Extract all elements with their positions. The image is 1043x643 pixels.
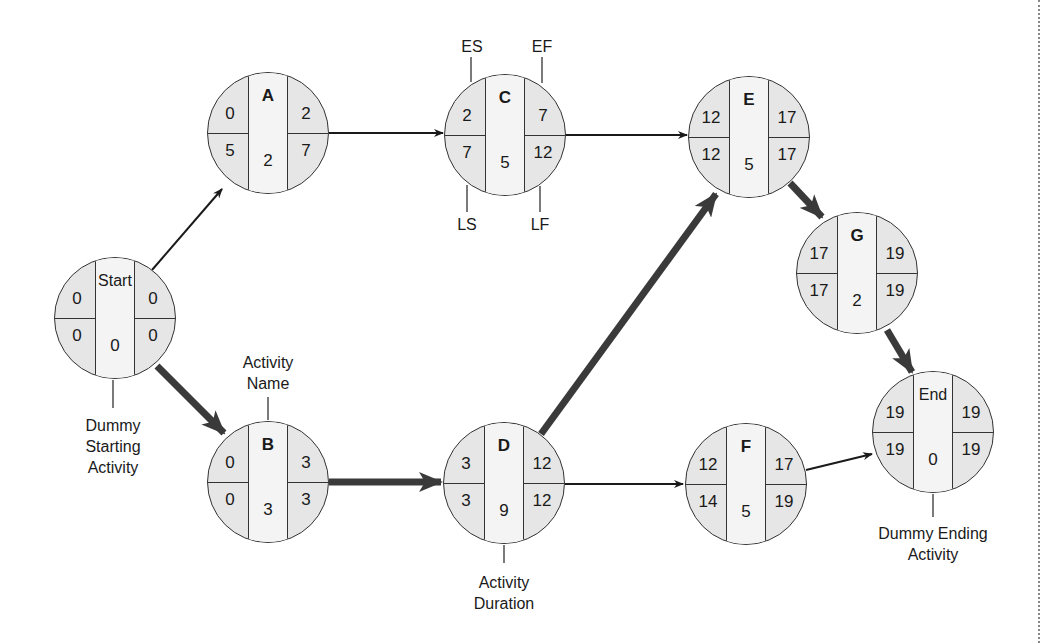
early-finish: 3 (286, 453, 326, 473)
early-start: 0 (57, 289, 97, 309)
arrow-e-to-g-critical (790, 183, 822, 217)
late-finish: 12 (522, 491, 562, 511)
late-finish: 19 (764, 492, 804, 512)
late-start: 7 (447, 143, 487, 163)
activity-duration-label: Activity Duration (454, 572, 554, 614)
right-divider (524, 135, 565, 136)
arrow-start-to-a (152, 189, 222, 270)
left-divider (444, 483, 485, 484)
activity-node-c: 27712C5 (444, 74, 566, 196)
activity-duration: 0 (95, 336, 135, 356)
late-finish: 7 (286, 141, 326, 161)
activity-name: G (837, 226, 877, 246)
right-divider (523, 483, 564, 484)
early-start: 0 (210, 453, 250, 473)
activity-duration: 3 (248, 500, 288, 520)
activity-name: E (729, 90, 769, 110)
late-finish: 12 (523, 143, 563, 163)
early-start: 12 (688, 455, 728, 475)
activity-duration: 0 (913, 450, 953, 470)
early-finish: 17 (764, 455, 804, 475)
activity-duration: 5 (485, 153, 525, 173)
activity-name: D (484, 436, 524, 456)
early-finish: 17 (767, 108, 807, 128)
activity-duration: 9 (484, 501, 524, 521)
left-divider (445, 135, 486, 136)
activity-node-d: 331212D9 (443, 422, 565, 544)
activity-name: A (248, 86, 288, 106)
early-finish: 19 (951, 403, 991, 423)
ef-label: EF (522, 36, 562, 57)
left-divider (797, 273, 838, 274)
left-divider (208, 133, 249, 134)
arrow-f-to-end (806, 454, 872, 470)
left-divider (208, 482, 249, 483)
activity-duration: 2 (248, 151, 288, 171)
early-start: 19 (875, 403, 915, 423)
arrow-g-to-end-critical (887, 330, 912, 372)
early-start: 0 (210, 104, 250, 124)
dummy-starting-activity-label: Dummy Starting Activity (63, 415, 163, 478)
late-start: 0 (57, 326, 97, 346)
dummy-ending-activity-label: Dummy Ending Activity (868, 523, 998, 565)
activity-duration: 5 (726, 502, 766, 522)
early-finish: 0 (133, 289, 173, 309)
activity-name: End (913, 385, 953, 405)
early-finish: 7 (523, 106, 563, 126)
arrow-start-to-b-critical (157, 366, 224, 433)
late-start: 0 (210, 490, 250, 510)
late-finish: 19 (951, 440, 991, 460)
late-finish: 19 (875, 281, 915, 301)
es-label: ES (452, 36, 492, 57)
left-divider (55, 318, 96, 319)
activity-name: Start (95, 271, 135, 291)
activity-duration: 2 (837, 291, 877, 311)
page-edge-dotted-border (1038, 0, 1040, 643)
activity-node-b: 0033B3 (207, 421, 329, 543)
late-start: 3 (446, 491, 486, 511)
activity-node-a: 0527A2 (207, 72, 329, 194)
early-start: 17 (799, 244, 839, 264)
activity-node-e: 12121717E5 (688, 76, 810, 198)
activity-name-label: Activity Name (218, 352, 318, 394)
activity-node-start: 0000Start0 (54, 257, 176, 379)
early-start: 2 (447, 106, 487, 126)
late-start: 19 (875, 440, 915, 460)
right-divider (765, 484, 806, 485)
lf-label: LF (520, 214, 560, 235)
early-finish: 12 (522, 454, 562, 474)
left-divider (873, 432, 914, 433)
right-divider (287, 133, 328, 134)
activity-node-end: 19191919End0 (872, 371, 994, 493)
late-start: 5 (210, 141, 250, 161)
activity-name: C (485, 88, 525, 108)
late-finish: 3 (286, 490, 326, 510)
late-start: 14 (688, 492, 728, 512)
ls-label: LS (447, 214, 487, 235)
early-start: 12 (691, 108, 731, 128)
early-start: 3 (446, 454, 486, 474)
arrow-d-to-e-critical (541, 194, 716, 434)
late-finish: 17 (767, 145, 807, 165)
network-diagram: 0000Start00527A20033B327712C5331212D9121… (0, 0, 1043, 643)
right-divider (952, 432, 993, 433)
early-finish: 19 (875, 244, 915, 264)
right-divider (134, 318, 175, 319)
activity-duration: 5 (729, 155, 769, 175)
activity-node-g: 17171919G2 (796, 212, 918, 334)
right-divider (876, 273, 917, 274)
activity-name: F (726, 437, 766, 457)
late-start: 12 (691, 145, 731, 165)
early-finish: 2 (286, 104, 326, 124)
activity-node-f: 12141719F5 (685, 423, 807, 545)
activity-name: B (248, 435, 288, 455)
right-divider (768, 137, 809, 138)
left-divider (686, 484, 727, 485)
left-divider (689, 137, 730, 138)
late-start: 17 (799, 281, 839, 301)
right-divider (287, 482, 328, 483)
late-finish: 0 (133, 326, 173, 346)
